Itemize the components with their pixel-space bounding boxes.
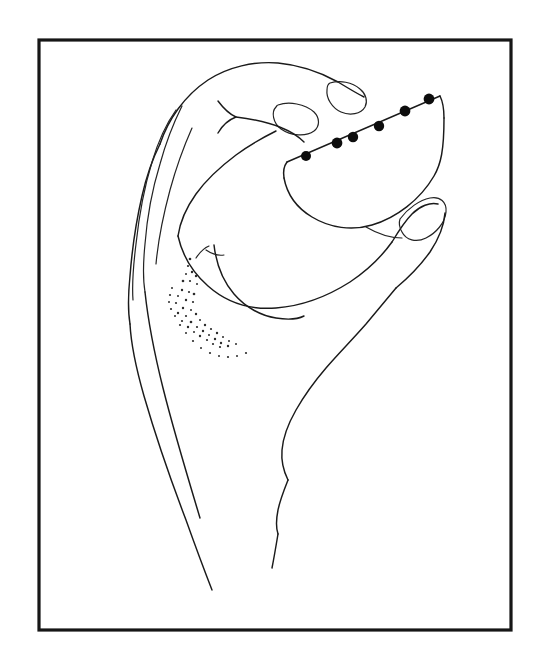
stipple-dot: [189, 280, 191, 282]
marker-dot-5: [400, 106, 411, 117]
marker-dot-1: [301, 151, 311, 161]
stipple-dot: [195, 313, 197, 315]
stipple-dot: [199, 319, 201, 321]
stipple-dot: [193, 293, 196, 296]
stipple-dot: [175, 302, 177, 304]
stipple-dot: [171, 287, 173, 289]
stipple-dot: [208, 334, 210, 336]
line-drawing-canvas: [0, 0, 540, 662]
stipple-dot: [191, 271, 193, 273]
stipple-dot: [185, 299, 187, 301]
stipple-dot: [190, 309, 192, 311]
stipple-dot: [185, 332, 187, 334]
stipple-dot: [177, 312, 179, 314]
stipple-dot: [202, 330, 204, 332]
canvas-background: [0, 0, 540, 662]
marker-dot-2: [332, 138, 343, 149]
marker-dot-3: [348, 132, 358, 142]
stipple-dot: [209, 352, 211, 354]
stipple-dot: [218, 355, 220, 357]
stipple-dot: [193, 331, 195, 333]
stipple-dot: [174, 315, 176, 317]
stipple-dot: [187, 265, 189, 267]
stipple-dot: [169, 294, 171, 296]
stipple-dot: [222, 336, 224, 338]
stipple-dot: [214, 338, 216, 340]
stipple-dot: [170, 308, 172, 310]
stipple-dot: [190, 321, 193, 324]
stipple-dot: [196, 326, 198, 328]
stipple-dot: [235, 343, 237, 345]
stipple-dot: [228, 340, 230, 342]
stipple-dot: [227, 356, 229, 358]
stipple-dot: [245, 352, 247, 354]
stipple-dot: [185, 315, 187, 317]
stipple-dot: [182, 280, 185, 283]
stipple-dot: [216, 332, 218, 334]
stipple-dot: [181, 289, 183, 291]
stipple-dot: [182, 307, 184, 309]
marker-dot-4: [374, 121, 384, 131]
stipple-dot: [192, 301, 194, 303]
stipple-dot: [206, 339, 208, 341]
stipple-dot: [236, 355, 238, 357]
stipple-dot: [187, 326, 189, 328]
stipple-dot: [204, 324, 206, 326]
stipple-dot: [177, 295, 179, 297]
stipple-dot: [196, 283, 198, 285]
stipple-dot: [188, 291, 190, 293]
stipple-dot: [192, 340, 194, 342]
stipple-dot: [212, 343, 214, 345]
stipple-dot: [185, 273, 187, 275]
figure-container: Hand holding a semicircular object with …: [0, 0, 540, 662]
stipple-dot: [219, 346, 221, 348]
stipple-dot: [227, 345, 229, 347]
stipple-dot: [199, 335, 201, 337]
stipple-dot: [189, 258, 192, 261]
stipple-dot: [195, 275, 197, 277]
stipple-dot: [179, 324, 181, 326]
stipple-dot: [168, 301, 170, 303]
marker-dot-6: [424, 94, 435, 105]
stipple-dot: [220, 342, 222, 344]
stipple-dot: [210, 328, 212, 330]
stipple-dot: [181, 320, 183, 322]
stipple-dot: [200, 347, 202, 349]
